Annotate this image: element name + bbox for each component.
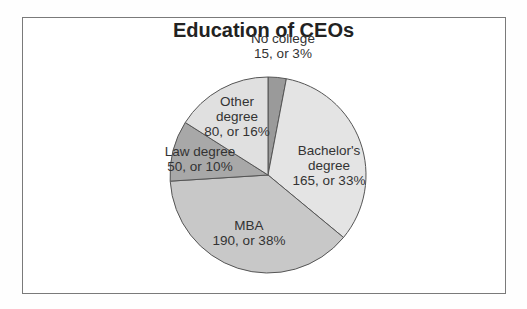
- slice-label-other: Other degree 80, or 16%: [204, 94, 269, 139]
- slice-label-mba: MBA 190, or 38%: [213, 218, 286, 248]
- slice-label-no-college: No college 15, or 3%: [251, 31, 315, 61]
- slice-label-bachelors: Bachelor's degree 165, or 33%: [293, 143, 366, 188]
- slice-label-law: Law degree 50, or 10%: [165, 144, 236, 174]
